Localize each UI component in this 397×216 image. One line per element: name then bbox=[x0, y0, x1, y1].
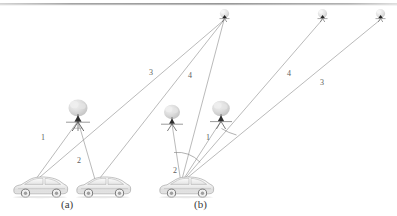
rays-group-b bbox=[172, 20, 380, 183]
path-label-b-2: 2 bbox=[173, 167, 177, 175]
top-divider-rule bbox=[0, 3, 397, 5]
base-station-b1 bbox=[161, 105, 183, 131]
path-label-b-4: 4 bbox=[287, 70, 291, 78]
path-label-a-1: 1 bbox=[41, 134, 45, 142]
path-label-b-1: 1 bbox=[206, 134, 210, 142]
ray-a-path-2 bbox=[78, 121, 96, 183]
satellite-1 bbox=[220, 9, 230, 22]
ray-b-path-1 bbox=[181, 121, 221, 183]
path-label-a-4: 4 bbox=[188, 72, 192, 80]
rays-group-a bbox=[33, 20, 224, 183]
path-label-b-3: 3 bbox=[320, 79, 324, 87]
ray-b-path-3 bbox=[181, 20, 380, 183]
car-a-right bbox=[76, 177, 131, 198]
base-station-b2 bbox=[210, 101, 232, 129]
figure-root: 1 2 3 4 1 2 4 3 (a) (b) bbox=[0, 0, 397, 216]
ray-a-path-4 bbox=[96, 20, 224, 183]
car-b bbox=[159, 177, 214, 198]
path-label-a-2: 2 bbox=[77, 157, 81, 165]
ray-a-path-1 bbox=[33, 121, 78, 183]
caption-a: (a) bbox=[61, 199, 73, 210]
path-label-a-3: 3 bbox=[149, 69, 153, 77]
ray-b-path-4 bbox=[181, 20, 322, 183]
figure-canvas bbox=[0, 0, 397, 216]
caption-b: (b) bbox=[194, 199, 207, 210]
satellite-2 bbox=[318, 9, 328, 22]
car-a-left bbox=[13, 177, 68, 198]
ray-a-path-3 bbox=[33, 20, 224, 183]
satellite-3 bbox=[376, 9, 386, 22]
base-station-a bbox=[66, 100, 90, 132]
